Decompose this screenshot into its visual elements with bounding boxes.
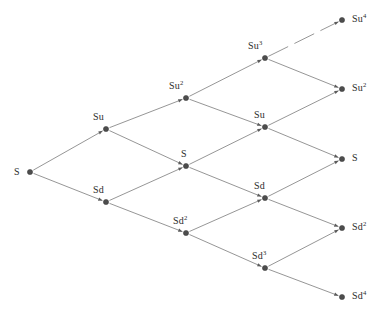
- lattice-node-label: Sd3: [252, 251, 266, 261]
- lattice-edge: [189, 60, 261, 97]
- lattice-node-label: Su: [93, 112, 104, 122]
- lattice-node-dot: [339, 86, 344, 91]
- node-label-exponent: 4: [363, 12, 367, 19]
- lattice-node-dot: [262, 195, 267, 200]
- lattice-node-label: Sd: [254, 181, 265, 191]
- edge-arrowhead: [334, 84, 339, 87]
- lattice-node-label: Su2: [169, 81, 183, 91]
- node-label-base: S: [181, 148, 187, 159]
- lattice-node-label: Sd2: [352, 222, 366, 232]
- node-label-base: Sd: [93, 184, 104, 195]
- lattice-edge: [269, 128, 339, 157]
- lattice-edge: [109, 131, 182, 165]
- lattice-node-label: Su4: [352, 14, 366, 24]
- lattice-edge: [269, 59, 339, 87]
- edge-arrowhead: [257, 60, 262, 63]
- edge-arrowhead: [178, 161, 183, 164]
- lattice-node-label: Su: [254, 110, 265, 120]
- edge-arrowhead: [334, 293, 339, 296]
- arrowheads-group: [98, 22, 339, 296]
- lattice-edge: [110, 99, 183, 127]
- node-label-base: Sd: [252, 250, 263, 261]
- lattice-node-dot: [262, 265, 267, 270]
- lattice-node-dot: [183, 95, 188, 100]
- lattice-edge: [109, 168, 182, 201]
- lattice-node-dot: [262, 124, 267, 129]
- lattice-edge: [190, 167, 262, 196]
- node-label-base: Su: [352, 13, 363, 24]
- lattice-node-label: Su3: [248, 41, 262, 51]
- lattice-node-dot: [339, 156, 344, 161]
- lattice-edge: [189, 200, 261, 232]
- edge-arrowhead: [257, 193, 262, 196]
- lattice-node-label: Sd4: [352, 291, 366, 301]
- lattice-edge: [269, 199, 339, 226]
- lattice-node-label: Su2: [352, 83, 366, 93]
- lattice-edge: [268, 91, 338, 126]
- lattice-node-dot: [339, 294, 344, 299]
- lattice-node-dot: [339, 225, 344, 230]
- lattice-node-dot: [103, 126, 108, 131]
- edge-arrowhead: [334, 230, 339, 233]
- node-label-exponent: 2: [180, 79, 184, 86]
- lattice-node-dot: [262, 55, 267, 60]
- lattice-node-dot: [339, 17, 344, 22]
- lattice-node-label: Sd: [93, 185, 104, 195]
- node-label-base: Su: [248, 40, 259, 51]
- node-label-base: Sd: [173, 215, 184, 226]
- lattice-edge: [110, 203, 183, 231]
- lattice-node-label: Sd2: [173, 216, 187, 226]
- lattice-edge: [189, 235, 261, 267]
- binomial-lattice-figure: SSuSdSu2SSd2Su3SuSdSd3Su4Su2SSd2Sd4: [0, 0, 392, 317]
- lattice-edge: [189, 129, 261, 165]
- edge-arrowhead: [334, 22, 339, 25]
- lattice-node-label: S: [14, 167, 20, 177]
- edge-arrowhead: [98, 131, 102, 135]
- node-label-base: Su: [169, 80, 180, 91]
- node-label-exponent: 4: [363, 289, 367, 296]
- edge-arrowhead: [334, 91, 339, 94]
- edge-arrowhead: [98, 197, 103, 200]
- edge-arrowhead: [257, 263, 262, 266]
- lattice-node-label: S: [181, 149, 187, 159]
- node-label-base: Su: [352, 82, 363, 93]
- lattice-node-dot: [183, 163, 188, 168]
- edge-arrowhead: [257, 123, 262, 126]
- node-label-exponent: 3: [263, 249, 267, 256]
- edge-arrowhead: [334, 154, 339, 157]
- node-label-base: Su: [93, 111, 104, 122]
- edge-arrowhead: [334, 161, 339, 164]
- edge-arrowhead: [334, 224, 339, 227]
- node-label-base: Sd: [352, 221, 363, 232]
- node-label-base: Sd: [254, 180, 265, 191]
- lattice-node-dot: [103, 199, 108, 204]
- lattice-edge: [268, 161, 338, 197]
- edge-arrowhead: [257, 129, 262, 132]
- edge-arrowhead: [178, 229, 183, 232]
- lattice-edge: [268, 22, 338, 57]
- lattice-node-label: S: [352, 153, 358, 163]
- node-label-base: Su: [254, 109, 265, 120]
- node-label-exponent: 2: [363, 81, 367, 88]
- edge-arrowhead: [178, 99, 183, 102]
- lattice-edge: [269, 269, 339, 295]
- lattice-edge: [190, 99, 262, 125]
- node-label-base: S: [14, 166, 20, 177]
- node-label-base: S: [352, 152, 358, 163]
- node-label-base: Sd: [352, 290, 363, 301]
- lattice-node-dot: [183, 230, 188, 235]
- node-label-exponent: 3: [259, 39, 263, 46]
- node-label-exponent: 2: [363, 220, 367, 227]
- lattice-edge: [268, 230, 338, 266]
- lattice-node-dot: [27, 169, 32, 174]
- node-label-exponent: 2: [184, 214, 188, 221]
- lattice-canvas: [0, 0, 392, 317]
- edge-arrowhead: [178, 168, 183, 171]
- lattice-edge: [33, 131, 102, 170]
- edge-arrowhead: [257, 200, 262, 203]
